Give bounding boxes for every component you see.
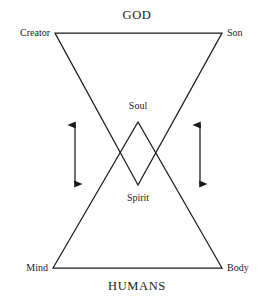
node-label-creator: Creator xyxy=(20,28,50,38)
node-label-spirit: Spirit xyxy=(127,193,149,203)
node-label-body: Body xyxy=(227,263,249,273)
node-label-mind: Mind xyxy=(26,263,48,273)
diagram-figure xyxy=(0,0,260,304)
group-label-humans: HUMANS xyxy=(108,280,166,293)
node-label-soul: Soul xyxy=(129,101,147,111)
diagram-canvas: GOD HUMANS Creator Son Mind Body Soul Sp… xyxy=(0,0,260,304)
group-label-god: GOD xyxy=(123,9,152,22)
node-label-son: Son xyxy=(227,28,243,38)
